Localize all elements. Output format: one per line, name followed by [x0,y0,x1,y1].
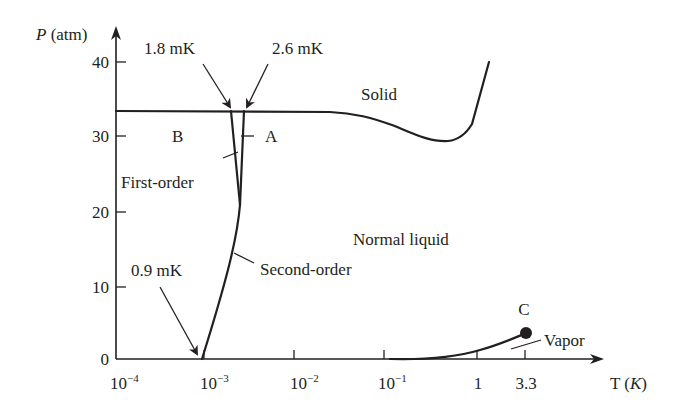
y-tick-0: 0 [101,350,110,369]
x-axis-label: T (K) [610,374,647,393]
label-2-6mk: 2.6 mK [272,39,324,58]
label-1-8mk: 1.8 mK [144,39,196,58]
first-order-line [231,111,240,205]
y-tick-40: 40 [92,53,109,72]
x-tick-1e-1: 10−1 [378,372,407,393]
x-tick-3-3: 3.3 [515,374,536,393]
y-tick-10: 10 [92,278,109,297]
y-axis-label: P (atm) [35,25,87,44]
label-first-order: First-order [121,173,194,192]
label-vapor: Vapor [544,331,585,350]
second-order-line-upper [240,111,244,205]
arrow-1-8mk [203,64,230,107]
y-axis [111,26,121,359]
x-axis [116,354,604,364]
arrow-0-9mk [160,287,197,354]
arrow-2-6mk [247,64,268,107]
second-order-line-lower [202,205,240,359]
label-phase-b: B [172,127,183,146]
label-second-order: Second-order [260,260,352,279]
label-solid: Solid [361,85,397,104]
phase-diagram-svg: 40 30 20 10 0 10−4 10−3 10−2 10−1 1 3.3 … [0,0,690,414]
x-tick-1e-2: 10−2 [290,372,319,393]
leader-vapor [511,340,541,349]
x-tick-1e-4: 10−4 [110,372,139,393]
x-tick-1e-3: 10−3 [200,372,229,393]
label-phase-a: A [265,127,278,146]
y-tick-20: 20 [92,203,109,222]
phase-diagram: 40 30 20 10 0 10−4 10−3 10−2 10−1 1 3.3 … [0,0,690,414]
liquid-vapor-curve [390,334,524,359]
label-normal-liquid: Normal liquid [353,230,449,249]
label-0-9mk: 0.9 mK [131,261,183,280]
leader-second-order [234,253,254,263]
x-tick-1: 1 [474,374,483,393]
critical-point-marker [520,327,532,339]
label-critical-point: C [518,300,529,319]
y-tick-30: 30 [92,127,109,146]
